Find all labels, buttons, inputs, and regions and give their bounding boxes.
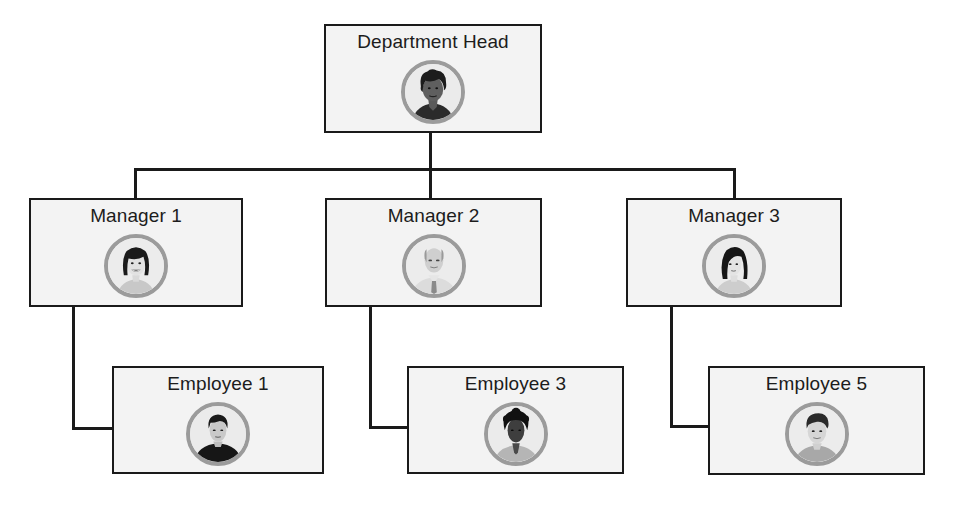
connector-head-down xyxy=(429,131,432,199)
connector-manager-2-down xyxy=(369,306,372,428)
node-manager-3: Manager 3 xyxy=(626,198,842,307)
node-title: Manager 1 xyxy=(31,205,241,227)
org-chart: Department Head Manager 1 xyxy=(0,0,955,510)
node-title: Employee 3 xyxy=(409,373,622,395)
node-employee-5: Employee 5 xyxy=(708,366,925,475)
woman-long-hair-avatar-icon xyxy=(702,234,766,298)
node-manager-2: Manager 2 xyxy=(325,198,542,307)
node-title: Department Head xyxy=(326,31,540,53)
young-man-avatar-icon xyxy=(785,402,849,466)
node-employee-1: Employee 1 xyxy=(112,366,324,474)
node-department-head: Department Head xyxy=(324,24,542,133)
connector-to-manager-1 xyxy=(134,168,137,199)
node-title: Employee 1 xyxy=(114,373,322,395)
connector-manager-3-down xyxy=(670,306,673,428)
connector-to-employee-1 xyxy=(72,427,114,430)
connector-to-employee-5 xyxy=(670,425,710,428)
node-title: Employee 5 xyxy=(710,373,923,395)
connector-to-manager-3 xyxy=(733,168,736,199)
man-curly-hair-avatar-icon xyxy=(484,402,548,466)
node-title: Manager 2 xyxy=(327,205,540,227)
connector-manager-1-down xyxy=(72,306,75,429)
node-manager-1: Manager 1 xyxy=(29,198,243,307)
connector-horizontal-bar xyxy=(134,168,736,171)
node-title: Manager 3 xyxy=(628,205,840,227)
man-dark-shirt-avatar-icon xyxy=(186,402,250,466)
connector-to-employee-3 xyxy=(369,426,409,429)
node-employee-3: Employee 3 xyxy=(407,366,624,474)
woman-bob-hair-avatar-icon xyxy=(104,234,168,298)
bald-man-tie-avatar-icon xyxy=(402,234,466,298)
woman-short-curly-hair-avatar-icon xyxy=(401,60,465,124)
